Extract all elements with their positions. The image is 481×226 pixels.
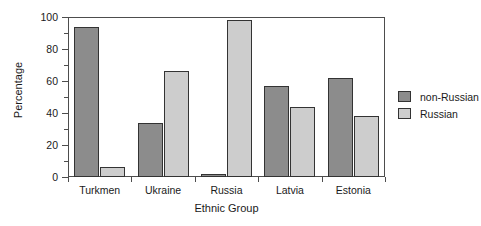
bar xyxy=(290,107,315,177)
x-tick-label: Ukraine xyxy=(145,184,181,196)
x-tick-mark xyxy=(131,177,132,182)
y-minor-tick-mark xyxy=(64,33,68,34)
y-minor-tick-mark xyxy=(64,161,68,162)
x-tick-mark xyxy=(322,177,323,182)
legend-swatch xyxy=(398,108,411,119)
legend-label: Russian xyxy=(420,108,458,120)
bar xyxy=(164,71,189,177)
x-axis-title: Ethnic Group xyxy=(68,202,385,214)
y-tick-mark xyxy=(62,49,68,50)
x-tick-label: Estonia xyxy=(336,184,371,196)
legend-item: non-Russian xyxy=(398,89,479,104)
legend-swatch xyxy=(398,91,411,102)
bar xyxy=(74,27,99,177)
x-tick-mark xyxy=(258,177,259,182)
y-tick-label: 60 xyxy=(18,75,58,87)
bar xyxy=(100,167,125,177)
y-minor-tick-mark xyxy=(64,129,68,130)
bar xyxy=(264,86,289,177)
legend-label: non-Russian xyxy=(420,91,479,103)
x-tick-mark xyxy=(195,177,196,182)
y-tick-label: 80 xyxy=(18,43,58,55)
x-tick-label: Latvia xyxy=(276,184,304,196)
x-tick-label: Russia xyxy=(210,184,242,196)
legend-item: Russian xyxy=(398,106,479,121)
y-minor-tick-mark xyxy=(64,65,68,66)
x-tick-mark xyxy=(385,177,386,182)
bar-chart: Percentage 020406080100 TurkmenUkraineRu… xyxy=(0,0,481,226)
y-tick-label: 0 xyxy=(18,171,58,183)
y-tick-label: 20 xyxy=(18,139,58,151)
y-minor-tick-mark xyxy=(64,97,68,98)
y-tick-mark xyxy=(62,113,68,114)
y-tick-label: 40 xyxy=(18,107,58,119)
legend: non-RussianRussian xyxy=(398,89,479,123)
x-tick-mark xyxy=(68,177,69,182)
bar xyxy=(328,78,353,177)
bar xyxy=(227,20,252,177)
bar xyxy=(201,174,226,177)
x-tick-label: Turkmen xyxy=(79,184,120,196)
bar xyxy=(138,123,163,177)
y-tick-mark xyxy=(62,145,68,146)
y-tick-label: 100 xyxy=(18,11,58,23)
y-tick-mark xyxy=(62,17,68,18)
bar xyxy=(354,116,379,177)
y-tick-mark xyxy=(62,81,68,82)
